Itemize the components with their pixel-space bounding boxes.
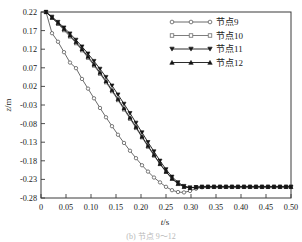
data-point-marker: [128, 111, 132, 115]
x-tick-label: 0.30: [184, 203, 198, 212]
y-tick-label: -0.03: [20, 101, 37, 110]
y-tick-label: -0.13: [20, 138, 37, 147]
data-point-marker: [164, 185, 167, 188]
data-point-marker: [74, 66, 77, 69]
y-tick-label: 0.12: [23, 45, 37, 54]
data-point-marker: [68, 61, 71, 64]
series-4: [44, 10, 293, 190]
data-point-marker: [50, 32, 53, 35]
series-line-3: [46, 12, 291, 188]
y-tick-label: 0.07: [23, 64, 37, 73]
data-point-marker: [170, 188, 173, 191]
legend-label: 节点12: [216, 58, 243, 68]
legend-label: 节点9: [216, 17, 239, 27]
data-point-marker: [128, 149, 131, 152]
x-tick-label: 0.25: [159, 203, 173, 212]
data-point-marker: [56, 40, 59, 43]
data-point-marker: [80, 77, 83, 80]
legend-label: 节点11: [216, 44, 243, 54]
data-point-marker: [98, 106, 101, 109]
legend-marker: [208, 20, 212, 24]
data-point-marker: [104, 116, 107, 119]
y-tick-label: -0.18: [20, 157, 37, 166]
y-tick-label: 0.22: [23, 8, 37, 17]
data-point-marker: [176, 190, 179, 193]
data-point-marker: [134, 156, 137, 159]
x-tick-label: 0.35: [209, 203, 223, 212]
series-1: [44, 10, 292, 194]
legend-marker: [170, 20, 174, 24]
series-line-4: [46, 12, 291, 188]
x-tick-label: 0: [39, 203, 43, 212]
x-tick-label: 0.50: [284, 203, 298, 212]
data-point-marker: [116, 133, 119, 136]
data-point-marker: [158, 181, 161, 184]
x-tick-label: 0.45: [259, 203, 273, 212]
legend-marker: [189, 34, 193, 38]
series-line-1: [46, 12, 291, 192]
line-chart: 00.050.100.150.200.250.300.350.400.450.5…: [0, 0, 302, 242]
data-point-marker: [182, 191, 185, 194]
figure-caption: (b) 节点 9～12: [126, 232, 175, 241]
y-tick-label: 0.02: [23, 82, 37, 91]
legend-entry-4: 节点12: [170, 58, 243, 68]
y-axis-unit: /m: [3, 98, 13, 108]
y-tick-label: -0.08: [20, 120, 37, 129]
x-axis-unit: /s: [163, 217, 170, 227]
legend-marker: [170, 34, 174, 38]
y-tick-label: 0.17: [23, 27, 37, 36]
series-line-2: [46, 12, 291, 188]
figure-container: 00.050.100.150.200.250.300.350.400.450.5…: [0, 0, 302, 242]
x-tick-label: 0.40: [234, 203, 248, 212]
legend-label: 节点10: [216, 31, 244, 41]
data-point-marker: [140, 164, 143, 167]
legend-entry-1: 节点9: [170, 17, 239, 27]
x-axis-label: t/s: [161, 217, 170, 227]
y-axis-label: z/m: [3, 98, 13, 112]
y-tick-label: -0.23: [20, 175, 37, 184]
legend-entry-2: 节点10: [170, 31, 243, 41]
x-axis-ticks: 00.050.100.150.200.250.300.350.400.450.5…: [39, 194, 298, 212]
legend-marker: [208, 34, 212, 38]
x-tick-label: 0.10: [84, 203, 98, 212]
legend-marker: [189, 20, 193, 24]
data-point-marker: [110, 125, 113, 128]
series-2: [44, 10, 292, 189]
series-3: [44, 10, 293, 189]
data-series-group: [44, 10, 293, 194]
data-point-marker: [86, 87, 89, 90]
x-tick-label: 0.15: [109, 203, 123, 212]
data-point-marker: [146, 170, 149, 173]
data-point-marker: [92, 97, 95, 100]
chart-legend: 节点9节点10节点11节点12: [170, 17, 244, 68]
y-tick-label: -0.28: [20, 194, 37, 203]
data-point-marker: [122, 141, 125, 144]
legend-entry-3: 节点11: [170, 44, 243, 54]
x-tick-label: 0.05: [59, 203, 73, 212]
x-tick-label: 0.20: [134, 203, 148, 212]
data-point-marker: [62, 50, 65, 53]
data-point-marker: [152, 176, 155, 179]
